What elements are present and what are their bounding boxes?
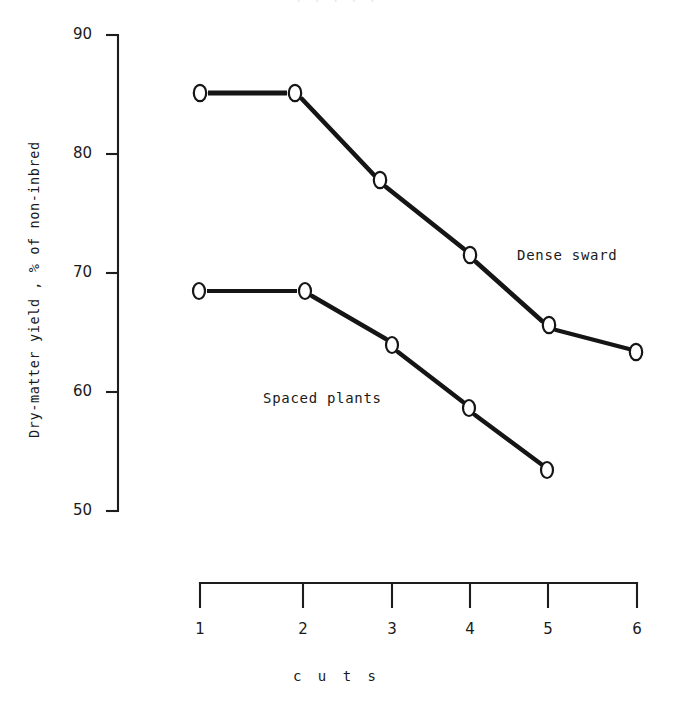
chart-figure: · · · · · Dry-matter yield , % of non-in… [0, 0, 673, 706]
spaced-marker-cut-2 [299, 283, 311, 299]
dense-marker-cut-1 [194, 85, 206, 101]
dense-segment-2-3 [302, 99, 374, 175]
dense-segment-3-4 [386, 187, 464, 249]
dense-marker-cut-5 [543, 317, 555, 333]
spaced-segment-3-4 [398, 352, 463, 402]
spaced-marker-cut-5 [541, 462, 553, 478]
dense-segment-5-6 [556, 330, 629, 349]
plot-canvas [0, 0, 673, 706]
x-axis-rule [200, 583, 637, 608]
series-dense-sward [194, 85, 642, 360]
dense-segment-4-5 [476, 262, 542, 321]
spaced-segment-2-3 [312, 296, 386, 339]
spaced-marker-cut-3 [386, 337, 398, 353]
spaced-segment-4-5 [475, 415, 541, 464]
dense-marker-cut-2 [289, 85, 301, 101]
dense-marker-cut-6 [630, 344, 642, 360]
dense-marker-cut-3 [374, 172, 386, 188]
spaced-marker-cut-1 [193, 283, 205, 299]
spaced-marker-cut-4 [463, 400, 475, 416]
dense-marker-cut-4 [464, 247, 476, 263]
y-axis-rule [106, 35, 118, 511]
series-spaced-plants [193, 283, 553, 478]
